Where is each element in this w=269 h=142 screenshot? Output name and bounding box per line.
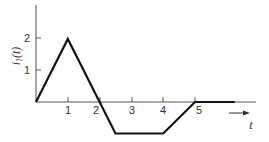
time-arrow-icon: [229, 111, 250, 116]
chart: 1 2 1 2 3 4 5 i1(t) t: [0, 0, 269, 142]
x-tick-label: 2: [93, 104, 99, 116]
x-axis-label: t: [249, 118, 253, 132]
x-tick-label: 3: [129, 104, 135, 116]
x-ticks: 1 2 3 4 5: [65, 97, 202, 116]
x-tick-label: 1: [65, 104, 71, 116]
y-axis-label: i1(t): [9, 47, 24, 66]
svg-text:i1(t): i1(t): [9, 47, 24, 66]
x-tick-label: 4: [160, 104, 166, 116]
x-tick-label: 5: [196, 104, 202, 116]
y-tick-label: 2: [24, 32, 30, 44]
y-ticks: 1 2: [24, 32, 41, 76]
y-tick-label: 1: [24, 64, 30, 76]
series-line: [36, 39, 235, 134]
